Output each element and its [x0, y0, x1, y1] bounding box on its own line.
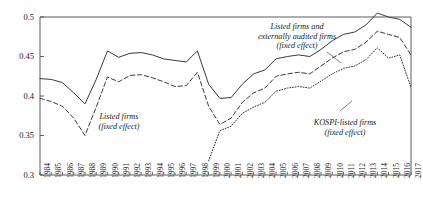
x-tick-label: 1984 — [43, 163, 52, 178]
x-tick-label: 1995 — [167, 163, 176, 178]
x-tick-label: 1998 — [201, 163, 210, 178]
annotation-line: Listed firms and — [258, 22, 336, 32]
annotation-leader-line — [327, 52, 341, 63]
x-tick-label: 1991 — [122, 163, 131, 178]
x-tick-label: 2007 — [302, 163, 311, 178]
annotation-line: Listed firms — [98, 112, 139, 122]
x-tick-label: 1994 — [156, 163, 165, 178]
y-axis-ticks — [40, 17, 44, 175]
annotation-line: externally audited firms — [258, 32, 336, 42]
x-tick-label: 2013 — [369, 163, 378, 178]
annotation-line: KOSPI-listed firms — [314, 118, 377, 128]
x-tick-label: 1997 — [189, 163, 198, 178]
x-tick-label: 1989 — [99, 163, 108, 178]
x-tick-label: 1990 — [111, 163, 120, 178]
annot-listed-and-audited: Listed firms andexternally audited firms… — [258, 22, 336, 51]
x-tick-label: 1992 — [133, 163, 142, 178]
x-tick-label: 1996 — [178, 163, 187, 178]
annotation-leader-line — [340, 101, 352, 111]
x-tick-label: 2006 — [291, 163, 300, 178]
annot-listed-firms: Listed firms(fixed effect) — [98, 112, 139, 131]
x-tick-label: 2003 — [257, 163, 266, 178]
x-tick-label: 2011 — [347, 163, 356, 178]
annotation-line: (fixed effect) — [258, 41, 336, 51]
x-tick-label: 1986 — [66, 163, 75, 178]
x-tick-label: 2009 — [324, 163, 333, 178]
x-tick-label: 2016 — [403, 163, 412, 178]
x-tick-label: 2014 — [380, 163, 389, 178]
x-tick-label: 2001 — [234, 163, 243, 178]
x-tick-label: 1988 — [88, 163, 97, 178]
x-tick-label: 1985 — [54, 163, 63, 178]
x-tick-label: 2004 — [268, 163, 277, 178]
x-tick-label: 1993 — [144, 163, 153, 178]
x-tick-label: 2002 — [246, 163, 255, 178]
x-tick-label: 2012 — [358, 163, 367, 178]
annotation-line: (fixed effect) — [314, 128, 377, 138]
x-tick-label: 2005 — [279, 163, 288, 178]
y-tick-label: 0.4 — [0, 91, 34, 101]
series-kospi-listed-line — [209, 48, 411, 161]
y-tick-label: 0.3 — [0, 170, 34, 180]
plot-frame — [40, 17, 411, 175]
y-tick-label: 0.35 — [0, 130, 34, 140]
x-tick-label: 2000 — [223, 163, 232, 178]
series-listed-and-audited-line — [40, 13, 411, 104]
x-tick-label: 2008 — [313, 163, 322, 178]
y-tick-label: 0.5 — [0, 12, 34, 22]
annot-kospi-listed: KOSPI-listed firms(fixed effect) — [314, 118, 377, 137]
x-tick-label: 1987 — [77, 163, 86, 178]
annotation-line: (fixed effect) — [98, 122, 139, 132]
x-tick-label: 2010 — [336, 163, 345, 178]
x-tick-label: 2017 — [414, 163, 423, 178]
x-tick-label: 2015 — [392, 163, 401, 178]
y-tick-label: 0.45 — [0, 51, 34, 61]
x-tick-label: 1999 — [212, 163, 221, 178]
